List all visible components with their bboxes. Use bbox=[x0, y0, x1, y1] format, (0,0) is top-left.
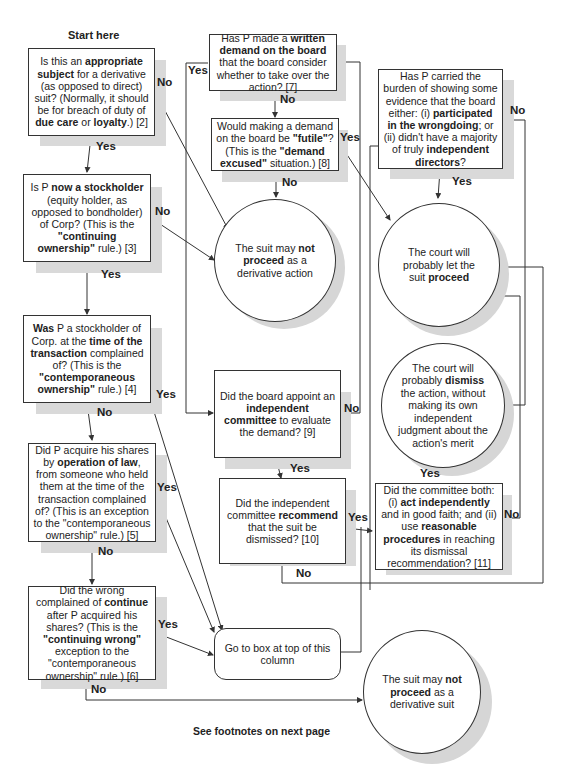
outcome-text: The suit may not proceed as a derivative… bbox=[382, 673, 462, 711]
edge-label: Yes bbox=[348, 511, 368, 523]
question-text: Did the independent committee recommend … bbox=[224, 497, 341, 546]
question-text: Did the wrong complained of continue aft… bbox=[33, 584, 151, 682]
outcome-text: The suit may not proceed as a derivative… bbox=[233, 242, 317, 280]
question-text: Has P carried the burden of showing some… bbox=[383, 70, 498, 168]
question-committee-recommend[interactable]: Did the independent committee recommend … bbox=[219, 478, 346, 564]
edge-label: No bbox=[344, 402, 359, 414]
question-demand-futile[interactable]: Would making a demand on the board be "f… bbox=[211, 118, 339, 171]
goto-top-of-column[interactable]: Go to box at top of this column bbox=[214, 628, 341, 680]
edge-label: No bbox=[97, 406, 112, 418]
question-burden-board-wrongdoing[interactable]: Has P carried the burden of showing some… bbox=[378, 69, 503, 169]
question-continuing-wrong[interactable]: Did the wrong complained of continue aft… bbox=[28, 586, 156, 680]
outcome-not-derivative-action: The suit may not proceed as a derivative… bbox=[214, 199, 336, 322]
question-committee-independence[interactable]: Did the committee both: (i) act independ… bbox=[375, 483, 503, 570]
outcome-text: The court will probably let the suit pro… bbox=[397, 246, 481, 284]
edge-label: Yes bbox=[101, 268, 121, 280]
edge-label: Yes bbox=[157, 481, 177, 493]
outcome-not-derivative-suit: The suit may not proceed as a derivative… bbox=[363, 630, 481, 754]
question-contemporaneous-ownership[interactable]: Was P a stockholder of Corp. at the time… bbox=[23, 315, 151, 403]
question-text: Has P made a written demand on the board… bbox=[214, 32, 332, 93]
edge-label: Yes bbox=[158, 618, 178, 630]
edge-label: No bbox=[504, 508, 519, 520]
edge-label: No bbox=[296, 567, 311, 579]
question-now-stockholder[interactable]: Is P now a stockholder (equity holder, a… bbox=[23, 174, 151, 262]
outcome-suit-proceed: The court will probably let the suit pro… bbox=[378, 203, 500, 327]
edge-label: No bbox=[157, 76, 172, 88]
edge-label: Yes bbox=[290, 462, 310, 474]
edge-label: No bbox=[280, 93, 295, 105]
question-written-demand[interactable]: Has P made a written demand on the board… bbox=[209, 34, 337, 91]
edge-label: Yes bbox=[420, 467, 440, 479]
edge-label: No bbox=[282, 176, 297, 188]
edge-label: Yes bbox=[156, 388, 176, 400]
edge-label: No bbox=[155, 205, 170, 217]
question-text: Did the committee both: (i) act independ… bbox=[380, 484, 498, 569]
question-independent-committee[interactable]: Did the board appoint an independent com… bbox=[214, 370, 341, 458]
question-text: Is this an appropriate subject for a der… bbox=[33, 55, 150, 128]
edge-label: Yes bbox=[96, 140, 116, 152]
edge-label: No bbox=[510, 104, 525, 116]
edge-label: No bbox=[98, 545, 113, 557]
outcome-text: The court will probably dismiss the acti… bbox=[394, 362, 492, 450]
question-text: Would making a demand on the board be "f… bbox=[216, 120, 334, 169]
outcome-court-dismiss: The court will probably dismiss the acti… bbox=[381, 343, 505, 468]
question-appropriate-subject[interactable]: Is this an appropriate subject for a der… bbox=[28, 48, 155, 136]
question-text: Did the board appoint an independent com… bbox=[219, 390, 336, 439]
edge-label: Yes bbox=[188, 64, 208, 76]
question-text: Was P a stockholder of Corp. at the time… bbox=[28, 322, 146, 395]
edge-label: Yes bbox=[452, 175, 472, 187]
start-here-label: Start here bbox=[68, 29, 119, 41]
question-operation-of-law[interactable]: Did P acquire his shares by operation of… bbox=[28, 443, 156, 542]
edge-label: Yes bbox=[340, 131, 360, 143]
edge-label: No bbox=[91, 683, 106, 695]
goto-text: Go to box at top of this column bbox=[219, 642, 336, 666]
question-text: Did P acquire his shares by operation of… bbox=[33, 444, 151, 542]
footnote-reference: See footnotes on next page bbox=[193, 725, 330, 737]
question-text: Is P now a stockholder (equity holder, a… bbox=[28, 181, 146, 254]
